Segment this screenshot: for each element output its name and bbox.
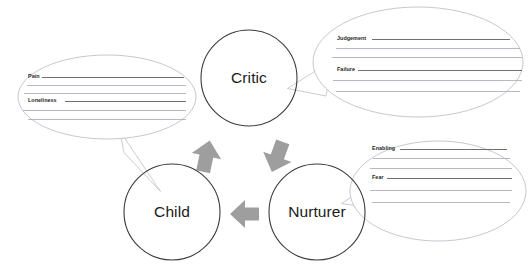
field-label-enabling: Enabling	[372, 145, 395, 151]
field-label-loneliness: Loneliness	[28, 97, 57, 103]
node-label-nurturer: Nurturer	[288, 203, 346, 221]
field-label-failure: Failure	[337, 66, 355, 72]
diagram-canvas: Critic Child Nurturer Pain Loneliness Ju…	[0, 0, 531, 269]
node-label-child: Child	[154, 203, 190, 221]
field-label-pain: Pain	[28, 73, 40, 79]
field-label-judgement: Judgement	[337, 35, 366, 41]
field-label-fear: Fear	[372, 174, 384, 180]
node-label-critic: Critic	[231, 69, 267, 87]
nodes-layer	[0, 0, 531, 269]
